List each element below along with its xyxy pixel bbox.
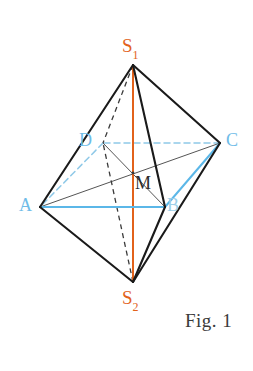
vertex-label-a: A [19,196,32,214]
vertex-label-s1-subscript: 1 [133,48,139,62]
edge-d-a [40,143,103,207]
vertex-label-s1: S1 [122,36,139,59]
vertex-label-c: C [226,131,238,149]
vertex-label-b: B [167,196,179,214]
figure-caption: Fig. 1 [185,310,232,332]
vertex-label-s2-subscript: 2 [133,300,139,314]
vertex-label-s2-letter: S [122,287,133,308]
point-m-marker [132,172,135,175]
figure-canvas: S1 S2 A B C D M Fig. 1 [0,0,253,371]
vertex-label-s1-letter: S [122,35,133,56]
vertex-label-d: D [79,131,92,149]
edge-s1-c [133,65,220,143]
vertex-label-s2: S2 [122,288,139,311]
vertex-label-m: M [135,174,151,192]
edge-s2-b [133,207,165,282]
